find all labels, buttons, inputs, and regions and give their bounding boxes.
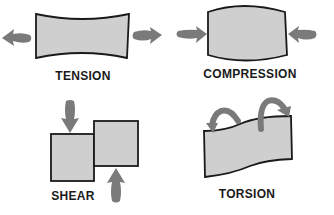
compression-panel: COMPRESSION [177,6,317,81]
torsion-label: TORSION [219,187,276,201]
tension-right-arrow-icon [133,27,163,44]
torsion-block [204,116,292,177]
torsion-left-rotate-arrow-icon [212,110,238,125]
shear-down-arrow-icon [61,100,79,133]
shear-right-block [94,121,138,166]
stress-types-diagram: TENSION COMPRESSION SHEAR TORSION [0,0,334,215]
shear-panel: SHEAR [51,100,138,203]
torsion-panel: TORSION [204,100,292,201]
tension-left-arrow-icon [2,29,31,46]
tension-label: TENSION [55,69,110,83]
tension-panel: TENSION [2,14,162,83]
shear-label: SHEAR [51,189,95,203]
compression-right-arrow-icon [288,26,317,43]
compression-block [208,6,287,61]
compression-label: COMPRESSION [203,67,296,81]
shear-up-arrow-icon [107,168,125,203]
shear-left-block [51,134,94,181]
compression-left-arrow-icon [177,26,208,43]
tension-block [36,14,129,58]
